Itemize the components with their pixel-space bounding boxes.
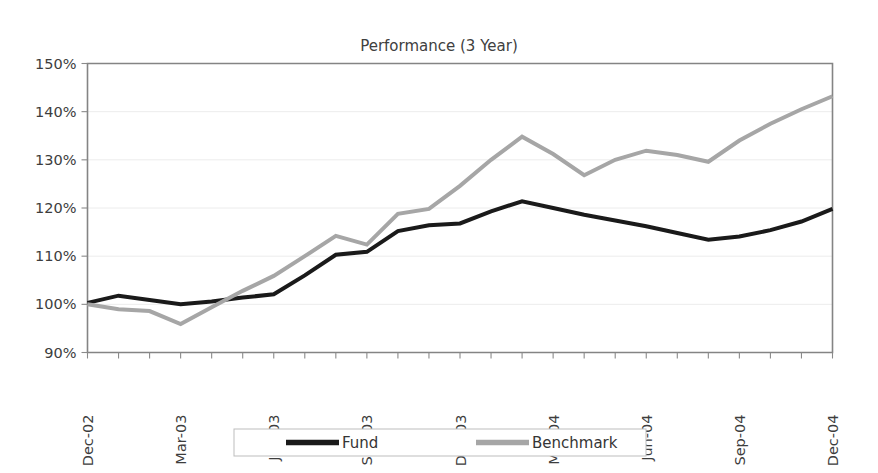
data-series [88,96,833,324]
x-axis-ticks [88,353,833,359]
y-axis-ticks [82,64,88,353]
y-axis-tick-label: 90% [44,345,76,361]
series-line-benchmark [88,96,833,324]
series-line-fund [88,201,833,304]
y-axis-tick-label: 140% [35,104,76,120]
legend-label-benchmark: Benchmark [532,434,618,452]
x-axis-tick-label: Sep-04 [732,415,748,466]
x-axis-tick-label: Mar-03 [173,415,189,465]
y-axis-tick-label: 130% [35,152,76,168]
chart-title: Performance (3 Year) [360,37,518,55]
y-axis-labels: 150%140%130%120%110%100%90% [35,56,76,361]
legend-label-fund: Fund [342,434,378,452]
x-axis-tick-label: Dec-02 [80,415,96,467]
grid-lines [88,112,833,353]
y-axis-tick-label: 100% [35,296,76,312]
y-axis-tick-label: 120% [35,200,76,216]
chart-canvas: 150%140%130%120%110%100%90% Dec-02Mar-03… [0,0,878,473]
chart-legend: FundBenchmark [234,429,646,456]
y-axis-tick-label: 150% [35,56,76,72]
x-axis-tick-label: Dec-04 [825,415,841,467]
performance-chart: 150%140%130%120%110%100%90% Dec-02Mar-03… [0,0,878,473]
y-axis-tick-label: 110% [35,248,76,264]
